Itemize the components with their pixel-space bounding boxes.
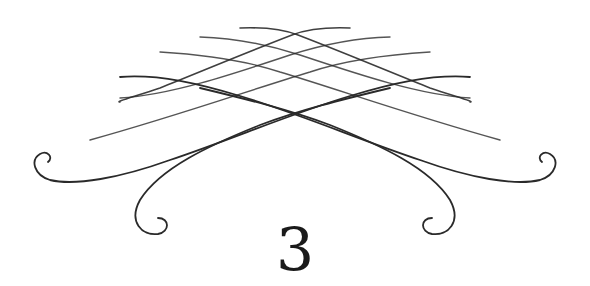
flourish-stroke [135, 88, 390, 234]
flourish-stroke [240, 28, 471, 102]
flourish-stroke [35, 76, 470, 182]
flourish-stroke [119, 28, 350, 102]
flourish-stroke [200, 88, 455, 234]
flourish-stroke [120, 76, 555, 182]
chapter-number: 3 [0, 218, 590, 282]
